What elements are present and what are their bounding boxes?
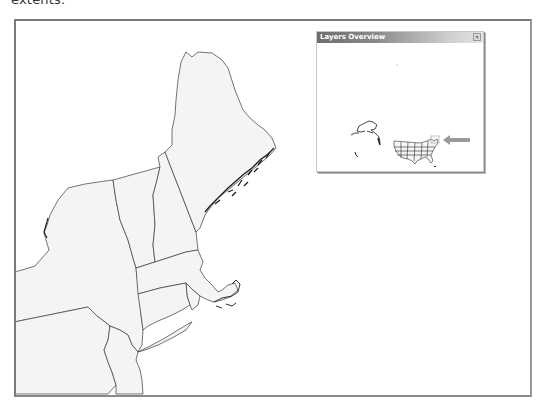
overview-dot-pr — [434, 166, 436, 167]
overview-title: Layers Overview — [320, 32, 385, 43]
arrow-icon — [443, 135, 470, 145]
overview-titlebar[interactable]: Layers Overview × — [317, 32, 483, 43]
close-icon[interactable]: × — [473, 33, 481, 41]
layers-overview-panel[interactable]: Layers Overview × — [316, 31, 484, 172]
overview-hawaii — [355, 152, 358, 157]
overview-alaska — [351, 121, 380, 145]
overview-map[interactable] — [317, 43, 483, 171]
caption-text: extents. — [11, 0, 65, 7]
overview-dot — [396, 64, 397, 65]
state-pennsylvania[interactable] — [14, 307, 116, 394]
